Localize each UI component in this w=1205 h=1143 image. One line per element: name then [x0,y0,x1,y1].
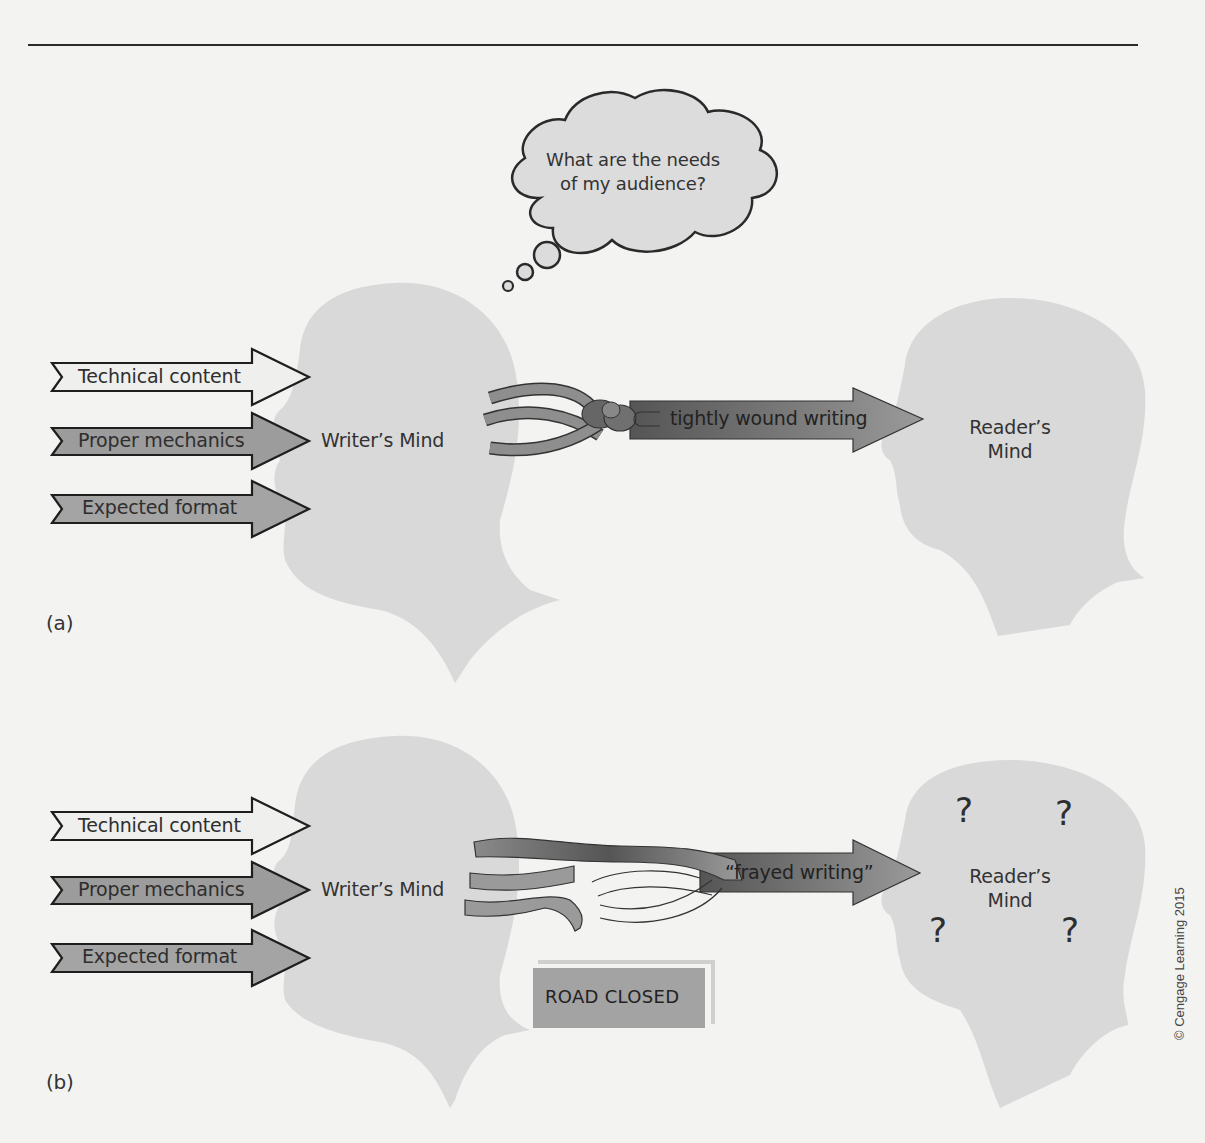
writer-mind-label-b: Writer’s Mind [321,878,444,900]
question-mark-3: ? [929,910,947,950]
frayed-writing-arrow [465,838,920,931]
reader-label-line-2: Mind [960,439,1060,463]
input-label-expected-format-a: Expected format [82,496,237,518]
reader-mind-label-b: Reader’s Mind [960,864,1060,912]
question-mark-2: ? [1055,793,1073,833]
reader-label-line-2: Mind [960,888,1060,912]
thought-bubble-text: What are the needs of my audience? [528,148,738,196]
reader-label-line-1: Reader’s [960,864,1060,888]
input-label-proper-mechanics-a: Proper mechanics [78,429,245,451]
writer-mind-label-a: Writer’s Mind [321,429,444,451]
reader-head-silhouette-b [881,760,1145,1108]
panel-letter-a: (a) [46,611,73,635]
reader-head-silhouette-a [881,298,1145,636]
copyright-notice: © Cengage Learning 2015 [1172,887,1187,1040]
output-arrow-label-a: tightly wound writing [670,407,867,429]
reader-label-line-1: Reader’s [960,415,1060,439]
thought-line-1: What are the needs [528,148,738,172]
output-arrow-label-b: “frayed writing” [725,861,873,883]
reader-mind-label-a: Reader’s Mind [960,415,1060,463]
thought-line-2: of my audience? [528,172,738,196]
input-label-expected-format-b: Expected format [82,945,237,967]
question-mark-4: ? [1061,910,1079,950]
panel-letter-b: (b) [46,1070,74,1094]
input-label-technical-content-b: Technical content [78,814,241,836]
question-mark-1: ? [955,790,973,830]
input-label-technical-content-a: Technical content [78,365,241,387]
road-closed-label: ROAD CLOSED [545,986,679,1007]
input-label-proper-mechanics-b: Proper mechanics [78,878,245,900]
writer-head-silhouette-b [273,736,530,1108]
writer-head-silhouette-a [273,283,560,683]
